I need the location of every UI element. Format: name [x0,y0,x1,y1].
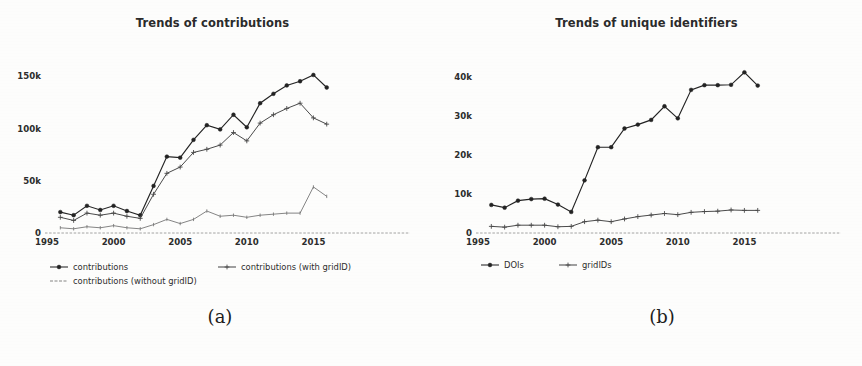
data-series [489,208,760,230]
legend-label: contributions (with gridID) [241,262,351,272]
chart-panel-a: Trends of contributions 050k100k150k1995… [0,0,431,300]
x-tick-label: 1995 [35,237,59,247]
y-tick-label: 40k [454,72,472,82]
legend-entry[interactable]: contributions [50,262,128,272]
x-tick-label: 2005 [599,237,623,247]
x-tick-label: 2015 [301,237,325,247]
x-tick-label: 2000 [533,237,557,247]
subcaption-b: (b) [612,306,712,327]
y-tick-label: 50k [23,176,41,186]
x-tick-label: 2005 [168,237,192,247]
y-tick-label: 150k [17,71,41,81]
x-tick-label: 2010 [235,237,259,247]
legend-label: DOIs [504,260,524,270]
data-series [58,73,328,217]
legend-entry[interactable]: gridIDs [559,260,612,270]
x-tick-label: 2010 [666,237,690,247]
plot-area-b: 010k20k30k40k19952000200520102015DOIsgri… [431,0,862,300]
x-tick-label: 2015 [732,237,756,247]
subcaption-a: (a) [170,306,270,327]
y-tick-label: 100k [17,124,41,134]
plot-area-a: 050k100k150k19952000200520102015contribu… [0,0,431,300]
y-tick-label: 20k [454,150,472,160]
legend-label: contributions (without gridID) [73,276,197,286]
x-tick-label: 2000 [102,237,126,247]
figure-container: Trends of contributions 050k100k150k1995… [0,0,862,366]
legend-label: gridIDs [582,260,612,270]
legend-entry[interactable]: contributions (with gridID) [218,262,351,272]
legend-label: contributions [73,262,128,272]
y-tick-label: 30k [454,111,472,121]
chart-panel-b: Trends of unique identifiers 010k20k30k4… [431,0,862,300]
y-tick-label: 10k [454,189,472,199]
data-series [58,101,329,223]
legend-entry[interactable]: DOIs [481,260,524,270]
x-tick-label: 1995 [466,237,490,247]
legend-entry[interactable]: contributions (without gridID) [50,276,197,286]
data-series [489,70,759,213]
